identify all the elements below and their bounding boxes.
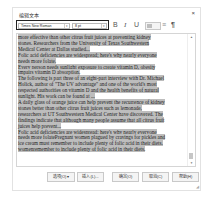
text-line: researchers at UT Southwestern Medical C… <box>18 111 163 117</box>
help-button[interactable]: 帮助(H) <box>172 172 199 182</box>
text-line: Medical Center at Dallas studied... <box>18 46 90 52</box>
text-line: Folic acid deficiencies are widespread; … <box>18 52 157 58</box>
edit-text-dialog: 编辑文本 × Times New Roman ▾ 8 pt ▾ B I U ≡ … <box>12 7 201 191</box>
italic-button[interactable]: I <box>124 21 126 29</box>
vertical-scrollbar[interactable]: ▲ ▼ <box>187 34 195 166</box>
color-swatch <box>147 24 152 28</box>
cancel-button[interactable]: 取消(C) <box>142 172 169 182</box>
text-line: needs more folate. <box>18 58 56 64</box>
bold-button[interactable]: B <box>113 21 118 29</box>
text-line: stones. Researchers from the University … <box>18 40 149 46</box>
font-size-value: 8 pt <box>75 24 81 28</box>
underline-button[interactable]: U <box>134 21 139 29</box>
options-label: 选项(O) <box>53 174 67 179</box>
options-button[interactable]: 选项(O) ▾ <box>47 172 75 182</box>
format-toolbar: Times New Roman ▾ 8 pt ▾ B I U ≡ ¶ <box>16 20 197 30</box>
scroll-thumb[interactable] <box>189 153 193 159</box>
text-line: stones better than other citrus fruit ju… <box>18 105 142 111</box>
chevron-down-icon[interactable]: ▾ <box>101 24 106 28</box>
text-editor[interactable]: more effective than other citrus fruit j… <box>16 33 196 167</box>
text-line: findings indicate that although many peo… <box>18 117 164 123</box>
scroll-down-icon[interactable]: ▼ <box>190 161 193 165</box>
font-size-select[interactable]: 8 pt ▾ <box>72 23 107 29</box>
resize-grip-icon[interactable]: ◢ <box>196 184 199 189</box>
chevron-down-icon[interactable]: ▾ <box>64 24 69 28</box>
font-family-select[interactable]: Times New Roman ▾ <box>18 23 70 29</box>
text-color-picker[interactable] <box>145 22 161 30</box>
close-icon[interactable]: × <box>191 10 195 16</box>
editor-text[interactable]: more effective than other citrus fruit j… <box>18 35 186 153</box>
text-line: juices help prevent... <box>18 123 61 129</box>
chevron-down-icon: ▾ <box>67 174 69 179</box>
dialog-title: 编辑文本 <box>19 11 39 18</box>
ok-button[interactable]: 确定(O) <box>112 172 139 182</box>
paragraph-icon[interactable]: ¶ <box>171 21 175 29</box>
font-selector-group: Times New Roman ▾ 8 pt ▾ <box>16 20 109 30</box>
font-family-value: Times New Roman <box>21 24 51 28</box>
scroll-up-icon[interactable]: ▲ <box>190 35 193 39</box>
align-icon[interactable]: ≡ <box>162 21 166 29</box>
insert-button[interactable]: 插入(L)... <box>77 172 104 182</box>
text-line: womenremember to include plenty of folic… <box>18 146 145 152</box>
